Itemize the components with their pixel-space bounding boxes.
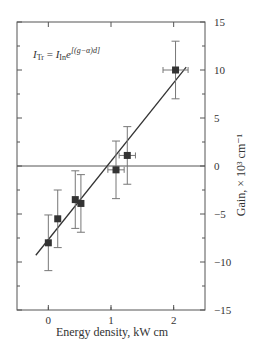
data-point	[163, 41, 188, 99]
data-marker	[172, 67, 179, 74]
data-marker	[77, 200, 84, 207]
y-tick-label: 0	[214, 160, 220, 172]
data-marker	[124, 152, 131, 159]
fit-line	[36, 67, 186, 255]
data-point	[71, 171, 79, 229]
gain-chart: 012151050−5−10−15 ITr = IIne[(g−α)d] Ene…	[0, 0, 258, 358]
x-tick-label: 2	[171, 314, 177, 326]
x-axis-label: Energy density, kW cm	[56, 325, 169, 339]
data-point	[119, 127, 135, 185]
data-point	[54, 190, 62, 248]
data-point	[44, 215, 52, 271]
y-axis-label: Gain, × 10³ cm⁻¹	[234, 133, 248, 216]
y-tick-label: −15	[214, 304, 232, 316]
data-point	[108, 141, 124, 199]
data-marker	[54, 215, 61, 222]
y-tick-label: −5	[214, 208, 226, 220]
data-point	[77, 175, 85, 233]
data-marker	[45, 239, 52, 246]
y-tick-label: 10	[214, 64, 226, 76]
y-tick-label: −10	[214, 256, 232, 268]
y-tick-label: 5	[214, 112, 220, 124]
data-marker	[113, 166, 120, 173]
y-tick-label: 15	[214, 16, 226, 28]
annotation: ITr = IIne[(g−α)d]	[32, 46, 100, 62]
x-tick-label: 0	[46, 314, 52, 326]
